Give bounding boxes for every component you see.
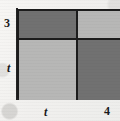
dimension-label-left-bottom: t <box>7 62 10 74</box>
region-top-right <box>78 11 120 40</box>
area-model-figure: 3 t t 4 <box>0 0 120 121</box>
region-top-left <box>19 11 78 40</box>
region-bottom-left <box>19 40 78 100</box>
dimension-label-bottom-right: 4 <box>104 105 110 117</box>
dimension-label-bottom-left: t <box>44 106 47 118</box>
region-bottom-right <box>78 40 120 100</box>
partitioned-rectangle <box>17 9 120 98</box>
dimension-label-left-top: 3 <box>4 17 10 29</box>
